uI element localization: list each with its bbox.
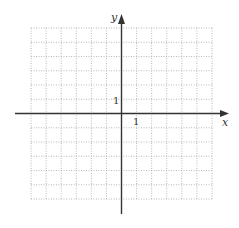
y-axis-arrow-icon <box>118 14 125 24</box>
coordinate-plane: y x 1 1 <box>0 0 239 228</box>
x-unit-label: 1 <box>133 116 139 127</box>
y-axis-label: y <box>110 11 118 24</box>
y-unit-label: 1 <box>113 95 119 106</box>
x-axis-label: x <box>222 116 229 129</box>
